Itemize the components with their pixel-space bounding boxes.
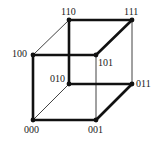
node-label-110: 110 [61, 7, 76, 17]
node-100 [31, 53, 36, 58]
edge-001-011 [96, 84, 132, 120]
node-110 [67, 18, 72, 23]
node-011 [130, 82, 135, 87]
edge-000-010 [33, 84, 69, 120]
node-label-101: 101 [98, 58, 113, 68]
node-001 [94, 118, 99, 123]
edge-101-111 [96, 20, 132, 55]
hypercube-diagram: 000001010011100101110111 [0, 0, 157, 144]
edge-100-110 [33, 20, 69, 55]
node-000 [31, 118, 36, 123]
node-label-010: 010 [50, 74, 65, 84]
cube-edges [0, 0, 157, 144]
node-label-100: 100 [12, 49, 27, 59]
node-010 [67, 82, 72, 87]
node-label-111: 111 [124, 7, 138, 17]
node-111 [130, 18, 135, 23]
node-label-001: 001 [88, 125, 103, 135]
node-label-011: 011 [136, 79, 151, 89]
node-label-000: 000 [24, 125, 39, 135]
